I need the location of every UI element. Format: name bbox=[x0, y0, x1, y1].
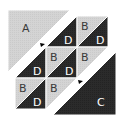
cell-r0-c2-d-label: D bbox=[96, 34, 104, 47]
cell-r1-c1-d-label: D bbox=[65, 65, 73, 78]
piece-c-label: C bbox=[97, 96, 105, 109]
cell-r2-c0-d-label: D bbox=[33, 96, 41, 109]
arrow-marker-upper-icon bbox=[40, 43, 45, 47]
cell-r1-c1-b-label: B bbox=[50, 51, 58, 64]
cell-r0-c2: B D bbox=[77, 16, 108, 47]
cell-r2-c0: B D bbox=[15, 78, 46, 109]
cell-r0-c2-b-label: B bbox=[81, 20, 89, 33]
cell-r1-c0-d-label: D bbox=[33, 65, 41, 78]
cell-r2-c1-b-label: B bbox=[50, 82, 58, 95]
arrow-marker-lower-icon bbox=[78, 80, 83, 84]
quilt-diagram: A D B D D B D B bbox=[0, 0, 118, 120]
cell-r1-c2-b-label: B bbox=[81, 51, 89, 64]
piece-a-label: A bbox=[22, 22, 30, 35]
quilt-diagram-svg: A D B D D B D B bbox=[0, 0, 118, 120]
cell-r1-c1: B D bbox=[46, 47, 77, 78]
cell-r0-c1-d-label: D bbox=[64, 34, 72, 47]
cell-r2-c0-b-label: B bbox=[19, 82, 27, 95]
